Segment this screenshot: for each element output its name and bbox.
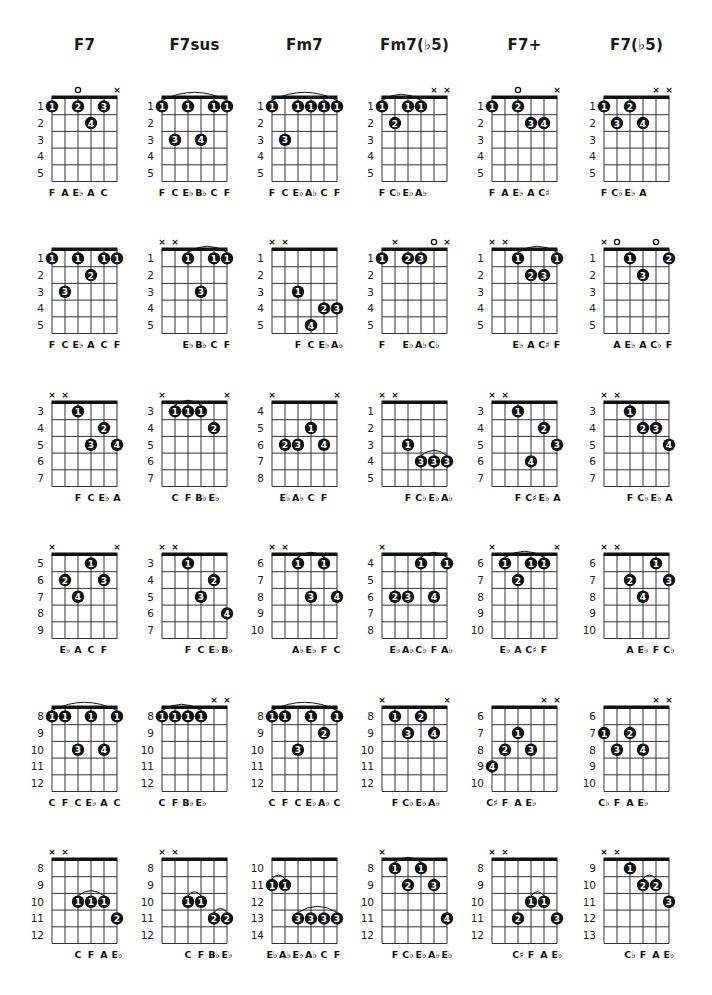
finger-dot: 3 [663, 896, 675, 908]
finger-dot: 2 [208, 912, 220, 924]
fret-number: 1 [367, 405, 374, 417]
note-name: C [334, 644, 341, 655]
svg-text:3: 3 [418, 254, 424, 264]
barre-arc [298, 906, 337, 912]
fret-number: 8 [477, 744, 484, 756]
finger-dot: 4 [525, 455, 537, 467]
note-name: F [554, 339, 561, 350]
fret-number: 5 [37, 319, 44, 331]
finger-dot: 2 [538, 422, 550, 434]
fret-number: 11 [361, 760, 374, 772]
svg-text:2: 2 [405, 254, 411, 264]
finger-dot: 1 [111, 252, 123, 264]
note-name: A [514, 644, 522, 655]
fret-number: 5 [147, 439, 154, 451]
chord-diagram: 89101112××1123C♯FAE♭ [462, 830, 572, 980]
finger-dot: 2 [389, 591, 401, 603]
note-name: F [172, 797, 179, 808]
fret-number: 8 [367, 710, 374, 722]
fret-number: 3 [257, 286, 264, 298]
fret-number: 1 [589, 100, 596, 112]
svg-text:3: 3 [528, 119, 534, 129]
svg-text:3: 3 [541, 271, 547, 281]
note-name: A [514, 797, 522, 808]
chord-diagram: 45678×11234E♭A♭C♭FA♭ [352, 525, 462, 675]
finger-dot: 1 [85, 557, 97, 569]
svg-text:1: 1 [489, 102, 495, 112]
svg-text:1: 1 [405, 440, 411, 450]
finger-dot: 3 [415, 252, 427, 264]
finger-dot: 3 [318, 912, 330, 924]
note-name: F [502, 797, 509, 808]
svg-text:2: 2 [640, 881, 646, 891]
finger-dot: 2 [221, 912, 233, 924]
svg-text:2: 2 [627, 102, 633, 112]
note-name: A [527, 339, 535, 350]
finger-dot: 1 [169, 405, 181, 417]
svg-text:3: 3 [666, 897, 672, 907]
fret-number: 1 [477, 100, 484, 112]
chord-title: F7 [30, 36, 140, 54]
finger-dot: 1 [182, 557, 194, 569]
finger-dot: 2 [663, 252, 675, 264]
note-name: F [198, 949, 205, 960]
fret-number: 3 [147, 557, 154, 569]
fret-number: 2 [477, 117, 484, 129]
fret-number: 9 [477, 879, 484, 891]
fret-number: 6 [257, 557, 264, 569]
svg-text:1: 1 [269, 712, 275, 722]
svg-text:3: 3 [444, 457, 450, 467]
svg-text:3: 3 [614, 745, 620, 755]
finger-dot: 3 [525, 117, 537, 129]
muted-string-icon: × [501, 847, 509, 857]
fret-number: 9 [37, 879, 44, 891]
finger-dot: 1 [318, 557, 330, 569]
note-name: A♭ [428, 949, 440, 960]
muted-string-icon: × [378, 390, 386, 400]
note-name: C [211, 339, 218, 350]
finger-dot: 3 [428, 455, 440, 467]
finger-dot: 1 [305, 100, 317, 112]
fret-number: 3 [147, 405, 154, 417]
fret-number: 8 [147, 862, 154, 874]
chord-diagram: 678910××1234C♭FAE♭ [574, 678, 684, 828]
svg-text:1: 1 [185, 712, 191, 722]
fret-number: 8 [37, 710, 44, 722]
note-name: C♭ [415, 492, 426, 503]
finger-dot: 4 [318, 439, 330, 451]
svg-text:1: 1 [295, 287, 301, 297]
muted-string-icon: × [333, 390, 341, 400]
open-string-icon [75, 87, 80, 92]
finger-dot: 1 [415, 100, 427, 112]
note-name: A♭ [441, 644, 453, 655]
finger-dot: 1 [318, 100, 330, 112]
note-name: E♭ [526, 797, 537, 808]
finger-dot: 1 [266, 100, 278, 112]
note-name: C [295, 797, 302, 808]
note-name: C♭ [650, 339, 661, 350]
finger-dot: 1 [156, 100, 168, 112]
fret-number: 10 [251, 744, 264, 756]
finger-dot: 1 [182, 252, 194, 264]
svg-text:1: 1 [392, 864, 398, 874]
note-name: E♭ [319, 339, 330, 350]
note-name: F [224, 339, 231, 350]
finger-dot: 3 [611, 744, 623, 756]
fret-number: 1 [257, 100, 264, 112]
fret-number: 1 [147, 100, 154, 112]
muted-string-icon: × [268, 390, 276, 400]
svg-text:3: 3 [418, 457, 424, 467]
finger-dot: 4 [663, 439, 675, 451]
fret-number: 7 [147, 624, 154, 636]
note-name: C [75, 797, 82, 808]
note-name: E♭ [552, 949, 563, 960]
chord-diagram: 12345××1123E♭AC♯F [462, 220, 572, 370]
fret-number: 4 [477, 150, 484, 162]
fret-number: 3 [367, 286, 374, 298]
svg-text:1: 1 [515, 729, 521, 739]
note-name: A [100, 797, 108, 808]
svg-text:1: 1 [541, 897, 547, 907]
svg-text:3: 3 [431, 881, 437, 891]
note-name: E♭ [625, 187, 636, 198]
note-name: F [321, 492, 328, 503]
